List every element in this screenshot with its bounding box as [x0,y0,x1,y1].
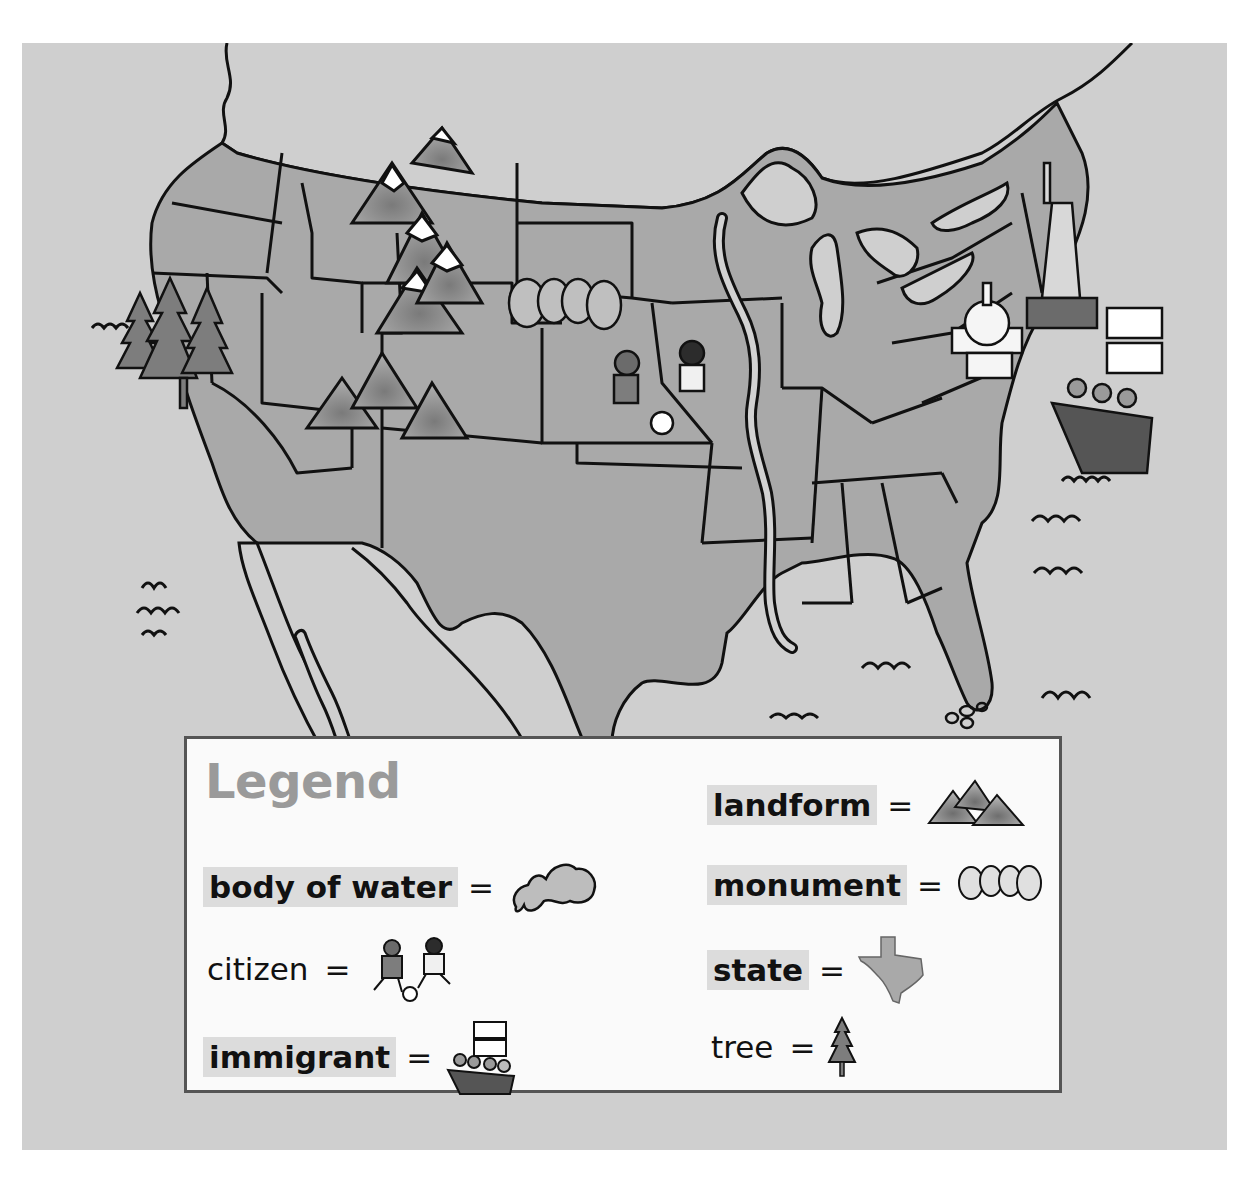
equals-sign: = [789,1029,815,1065]
citizens-soccer-icon [362,934,462,1004]
mount-rushmore-icon [955,857,1045,912]
legend-entry-body-of-water: body of water = [203,857,601,917]
legend-term: immigrant [203,1037,396,1077]
mountains-icon [925,777,1025,832]
legend-term: citizen [203,949,314,989]
equals-sign: = [819,952,845,988]
legend-term: body of water [203,867,458,907]
legend-term: landform [707,785,877,825]
legend-term: tree [707,1027,779,1067]
legend-entry-monument: monument = [707,857,1045,912]
map-panel: Legend body of water = citizen = immigra… [22,43,1227,1150]
immigrant-ship-illustration [1052,308,1162,473]
legend: Legend body of water = citizen = immigra… [184,736,1062,1093]
legend-term: monument [707,865,907,905]
equals-sign: = [887,787,913,823]
legend-entry-citizen: citizen = [203,934,462,1004]
lake-icon [506,857,601,917]
equals-sign: = [917,867,943,903]
legend-entry-immigrant: immigrant = [203,1014,519,1099]
legend-entry-state: state = [707,935,927,1005]
equals-sign: = [406,1039,432,1075]
pine-tree-icon [827,1016,857,1078]
legend-entry-tree: tree = [707,1016,857,1078]
legend-term: state [707,950,809,990]
texas-state-icon [857,935,927,1005]
legend-entry-landform: landform = [707,777,1025,832]
equals-sign: = [468,869,494,905]
immigrant-ship-icon [444,1014,519,1099]
legend-title: Legend [205,753,401,809]
equals-sign: = [324,951,350,987]
